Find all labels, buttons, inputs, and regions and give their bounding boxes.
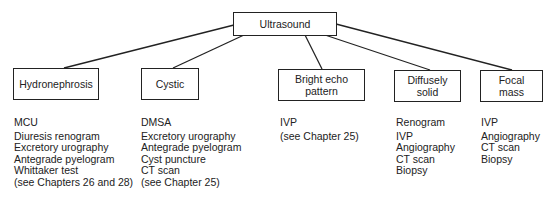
- node-label-line: Focal: [499, 74, 525, 86]
- node-diffusely-solid: Diffusely solid: [394, 70, 461, 102]
- node-label-line: pattern: [305, 85, 338, 97]
- list-bright-echo-pattern: IVP (see Chapter 25): [280, 117, 359, 142]
- node-focal-mass: Focal mass: [480, 70, 543, 102]
- list-item: (see Chapter 25): [141, 177, 241, 189]
- list-item: DMSA: [141, 117, 241, 129]
- node-bright-echo-pattern: Bright echo pattern: [278, 69, 365, 101]
- node-label: Hydronephrosis: [19, 78, 93, 90]
- list-item: Renogram: [396, 117, 455, 129]
- connector-cystic: [173, 35, 244, 68]
- connector-diffusely-solid: [325, 35, 430, 70]
- connector-hydronephrosis: [64, 25, 234, 68]
- list-item: IVP: [481, 117, 540, 129]
- list-item: MCU: [14, 117, 133, 129]
- root-node-ultrasound: Ultrasound: [233, 12, 337, 36]
- list-hydronephrosis: MCU Diuresis renogram Excretory urograph…: [14, 117, 133, 189]
- node-label-line: solid: [417, 86, 439, 98]
- node-label-line: Diffusely: [407, 74, 447, 86]
- list-focal-mass: IVP Angiography CT scan Biopsy: [481, 117, 540, 165]
- node-label-line: mass: [499, 86, 524, 98]
- list-diffusely-solid: Renogram IVP Angiography CT scan Biopsy: [396, 117, 455, 177]
- connector-bright-echo: [305, 35, 322, 69]
- root-label: Ultrasound: [260, 18, 311, 30]
- list-item: IVP: [280, 117, 359, 129]
- node-cystic: Cystic: [141, 68, 199, 100]
- node-label-line: Bright echo: [295, 73, 348, 85]
- list-item: (see Chapter 25): [280, 131, 359, 143]
- list-item: (see Chapters 26 and 28): [14, 177, 133, 189]
- list-item: Biopsy: [396, 165, 455, 177]
- list-item: Biopsy: [481, 154, 540, 166]
- node-hydronephrosis: Hydronephrosis: [13, 68, 99, 100]
- list-cystic: DMSA Excretory urography Antegrade pyelo…: [141, 117, 241, 189]
- node-label: Cystic: [156, 78, 185, 90]
